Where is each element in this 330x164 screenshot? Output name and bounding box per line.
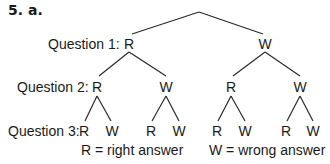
q3-node: W [306, 123, 319, 139]
q3-node: W [105, 123, 118, 139]
q3-node: W [238, 123, 251, 139]
q3-node: R [281, 123, 291, 139]
q3-node: W [172, 123, 185, 139]
q3-node: R [79, 123, 89, 139]
q2-node: W [293, 79, 306, 95]
q3-node: R [212, 123, 222, 139]
legend-right-answer: R = right answer [81, 142, 183, 158]
q2-node: R [92, 79, 102, 95]
q2-node: W [159, 79, 172, 95]
q3-node: R [146, 123, 156, 139]
q2-node: R [226, 79, 236, 95]
q1-node-right: R [124, 36, 134, 52]
q1-node-wrong: W [258, 36, 271, 52]
legend-wrong-answer: W = wrong answer [209, 142, 325, 158]
